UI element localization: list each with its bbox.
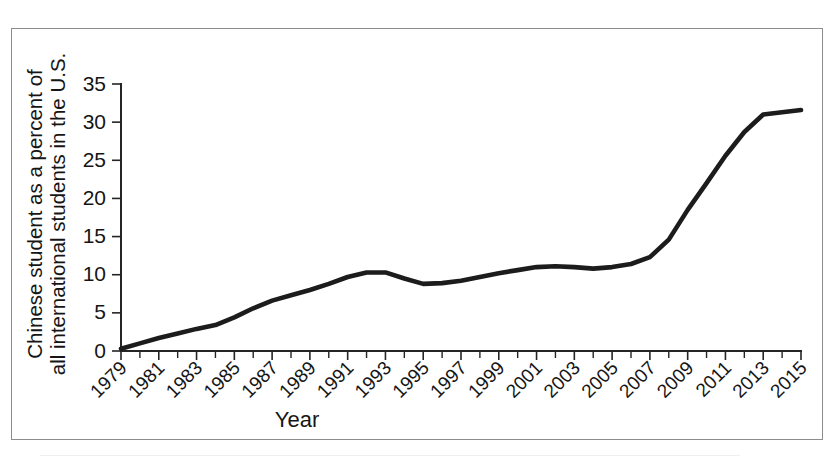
line-chart: Chinese student as a percent of all inte… <box>12 29 824 441</box>
x-tick-label: 2003 <box>539 357 584 402</box>
y-axis-title-line1: Chinese student as a percent of <box>23 69 46 359</box>
x-axis-title: Year <box>275 407 319 432</box>
x-tick-label: 1991 <box>313 357 358 402</box>
x-tick-label: 1989 <box>275 357 320 402</box>
series-line-chinese-share <box>121 110 801 349</box>
y-axis-title: Chinese student as a percent of all inte… <box>23 53 69 376</box>
x-tick-label: 2001 <box>502 357 547 402</box>
x-tick-label: 2007 <box>615 357 660 402</box>
x-tick-label: 1993 <box>351 357 396 402</box>
x-tick-label: 1985 <box>199 357 244 402</box>
x-tick-label: 1987 <box>237 357 282 402</box>
x-tick-label: 2011 <box>692 357 736 401</box>
data-series-line <box>121 110 801 349</box>
x-tick-label: 1997 <box>426 357 471 402</box>
x-tick-label: 1983 <box>162 357 207 402</box>
y-axis-title-line2: all international students in the U.S. <box>46 53 69 376</box>
y-tick-label: 0 <box>94 339 106 362</box>
y-tick-label: 15 <box>83 224 106 247</box>
x-tick-label: 1999 <box>464 357 509 402</box>
x-axis-ticks <box>121 351 801 360</box>
x-tick-label: 2009 <box>653 357 698 402</box>
y-tick-label: 35 <box>83 72 106 95</box>
y-tick-label: 30 <box>83 110 106 133</box>
x-tick-label: 1995 <box>388 357 433 402</box>
chart-plot-area: Chinese student as a percent of all inte… <box>12 29 824 441</box>
x-tick-label: 2013 <box>728 357 773 402</box>
y-tick-label: 10 <box>83 262 106 285</box>
y-tick-label: 25 <box>83 148 106 171</box>
y-tick-label: 5 <box>94 300 106 323</box>
scan-artifact-line <box>40 455 740 456</box>
x-tick-label: 2005 <box>577 357 622 402</box>
figure-frame: Chinese student as a percent of all inte… <box>11 28 823 440</box>
x-axis-tick-labels: 1979198119831985198719891991199319951997… <box>86 357 811 402</box>
x-tick-label: 1981 <box>124 357 169 402</box>
axis-lines <box>121 84 801 351</box>
x-tick-label: 1979 <box>86 357 131 402</box>
x-tick-label: 2015 <box>766 357 811 402</box>
y-tick-label: 20 <box>83 186 106 209</box>
y-axis-ticks: 05101520253035 <box>83 72 121 362</box>
